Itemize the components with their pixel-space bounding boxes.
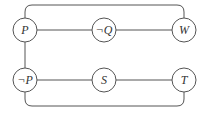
node-label: W	[179, 23, 190, 37]
graph-svg: P ¬Q W ¬P S T	[0, 0, 209, 115]
edge-p-w-loop	[25, 5, 184, 18]
node-p: P	[13, 18, 37, 42]
node-label: ¬Q	[96, 23, 113, 37]
edge-notp-t-loop	[25, 92, 184, 106]
node-s: S	[92, 68, 116, 92]
node-w: W	[172, 18, 196, 42]
node-label: ¬P	[17, 73, 33, 87]
node-t: T	[172, 68, 196, 92]
node-label: P	[20, 23, 29, 37]
diagram-canvas: P ¬Q W ¬P S T	[0, 0, 209, 115]
node-not-p: ¬P	[13, 68, 37, 92]
node-label: S	[101, 73, 107, 87]
node-not-q: ¬Q	[92, 18, 116, 42]
